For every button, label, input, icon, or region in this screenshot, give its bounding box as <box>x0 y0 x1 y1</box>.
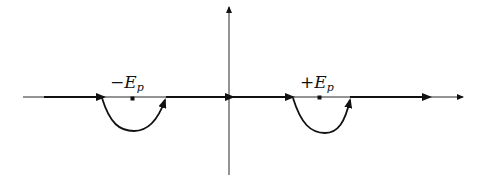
contour-diagram: −Ep +Ep <box>0 0 500 177</box>
pole-left <box>131 97 135 101</box>
diagram-svg <box>0 0 500 177</box>
contour-path <box>44 97 430 133</box>
label-plus-ep: +Ep <box>300 72 334 94</box>
label-minus-ep: −Ep <box>110 72 144 94</box>
pole-right <box>318 96 322 100</box>
